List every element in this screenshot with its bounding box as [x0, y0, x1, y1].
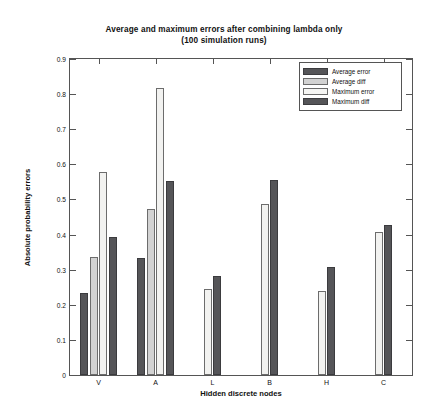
y-tick-label: 0.5	[57, 196, 66, 203]
legend-item: Average diff	[303, 77, 398, 86]
bar-v-avg-diff	[90, 257, 98, 375]
bar-c-max-diff	[384, 225, 392, 375]
y-axis-title-text: Absolute probability errors	[24, 168, 33, 265]
y-tick-label: 0.8	[57, 91, 66, 98]
y-tick-mark-right	[406, 375, 412, 376]
y-tick-label: 0.3	[57, 266, 66, 273]
bar-b-max-diff	[270, 180, 278, 375]
y-tick-mark	[70, 375, 76, 376]
legend-swatch-avg-diff	[303, 78, 328, 85]
bar-a-max-diff	[166, 181, 174, 375]
legend-swatch-avg-error	[303, 68, 328, 75]
bar-l-max-error	[204, 289, 212, 375]
bar-h-max-error	[318, 291, 326, 375]
x-tick-label: V	[96, 379, 101, 386]
chart-title: Average and maximum errors after combini…	[0, 24, 448, 46]
legend-item: Average error	[303, 67, 398, 76]
x-axis-title: Hidden discrete nodes	[69, 389, 413, 398]
x-tick-label: L	[211, 379, 215, 386]
bar-a-avg-error	[137, 258, 145, 375]
legend-label: Average error	[332, 68, 370, 75]
bar-h-max-diff	[327, 267, 335, 375]
bar-c-max-error	[375, 232, 383, 375]
chart-title-line1: Average and maximum errors after combini…	[105, 25, 342, 34]
legend-swatch-max-error	[303, 88, 328, 95]
y-tick-label: 0.2	[57, 301, 66, 308]
x-tick-label: B	[267, 379, 272, 386]
y-tick-label: 0	[62, 372, 66, 379]
x-tick-label: H	[324, 379, 329, 386]
bar-v-max-diff	[109, 237, 117, 375]
y-axis-title: Absolute probability errors	[22, 58, 34, 376]
y-tick-label: 0.6	[57, 161, 66, 168]
x-tick-label: C	[381, 379, 386, 386]
legend-label: Maximum error	[332, 88, 374, 95]
y-tick-label: 0.4	[57, 231, 66, 238]
legend-label: Maximum diff	[332, 98, 369, 105]
legend-label: Average diff	[332, 78, 365, 85]
chart-subtitle: (100 simulation runs)	[0, 35, 448, 46]
y-tick-label: 0.7	[57, 126, 66, 133]
bar-v-max-error	[99, 172, 107, 375]
bar-a-avg-diff	[147, 209, 155, 375]
bar-l-max-diff	[213, 276, 221, 375]
chart-figure: Average and maximum errors after combini…	[0, 0, 448, 412]
bar-b-max-error	[261, 204, 269, 375]
chart-legend: Average errorAverage diffMaximum errorMa…	[299, 62, 402, 111]
bar-a-max-error	[156, 88, 164, 375]
legend-item: Maximum error	[303, 87, 398, 96]
y-tick-label: 0.9	[57, 56, 66, 63]
y-tick-label: 0.1	[57, 336, 66, 343]
x-tick-label: A	[153, 379, 158, 386]
legend-swatch-max-diff	[303, 98, 328, 105]
legend-item: Maximum diff	[303, 97, 398, 106]
bar-v-avg-error	[80, 293, 88, 376]
